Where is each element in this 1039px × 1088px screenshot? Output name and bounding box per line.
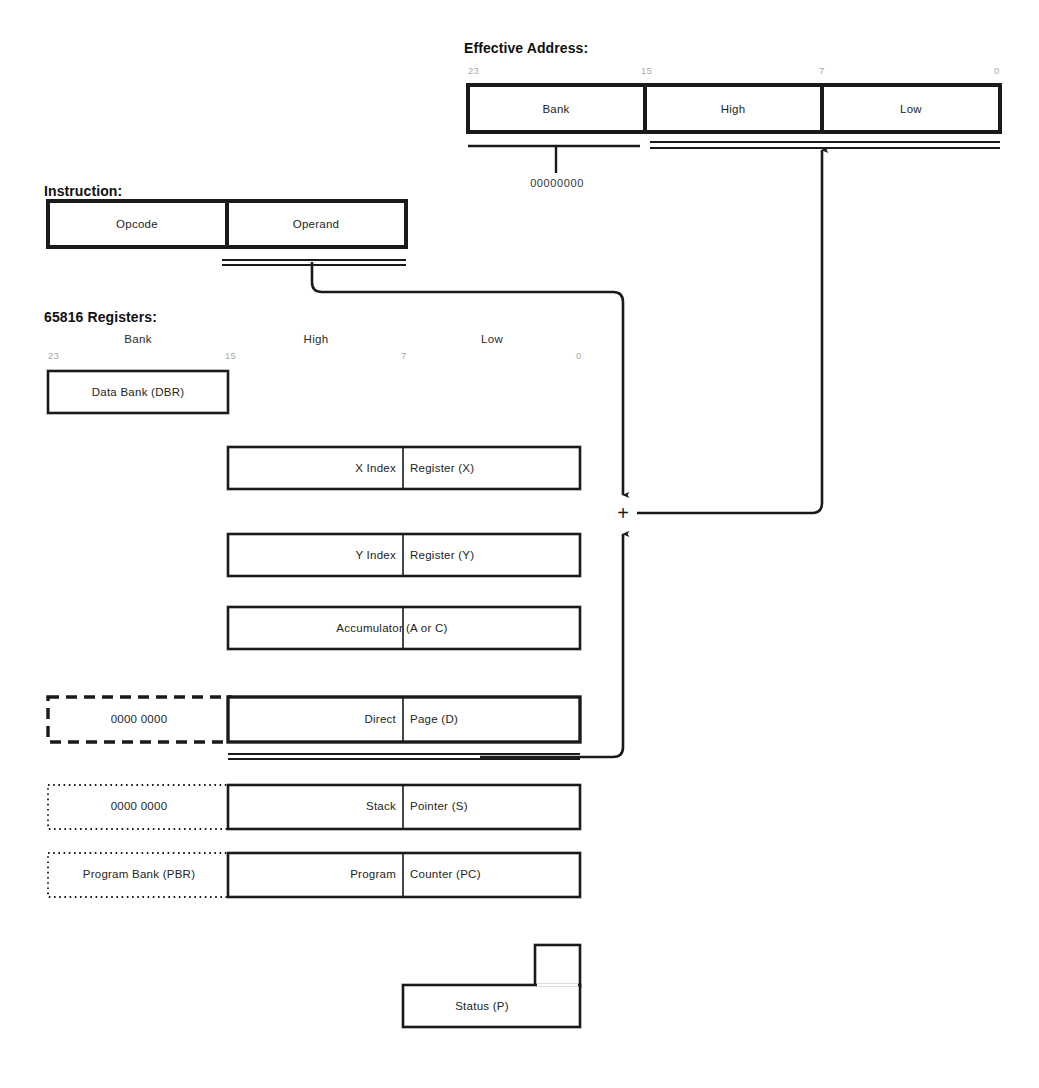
adder-to-effective-address-route xyxy=(637,150,822,513)
reg-bit-label-23: 23 xyxy=(48,351,59,361)
instruction-field-opcode-label: Opcode xyxy=(116,219,158,231)
diagram-vector-layer xyxy=(0,0,1039,1088)
ea-bit-label-23: 23 xyxy=(468,66,479,76)
direct-page-box-group xyxy=(48,697,580,759)
stack-pointer-left-label: Stack xyxy=(366,801,396,813)
ea-field-bank-label: Bank xyxy=(542,104,569,116)
accumulator-right-label: (A or C) xyxy=(406,623,448,635)
y-index-right-label: Register (Y) xyxy=(410,550,474,562)
y-index-left-label: Y Index xyxy=(355,550,396,562)
ea-bit-label-15: 15 xyxy=(641,66,652,76)
instruction-box-group xyxy=(48,201,406,265)
direct-page-right-label: Page (D) xyxy=(410,714,458,726)
direct-page-left-label: Direct xyxy=(364,714,396,726)
adder-plus-symbol: + xyxy=(617,503,629,523)
effective-address-heading: Effective Address: xyxy=(464,41,588,55)
ea-bank-zero-annotation: 00000000 xyxy=(530,178,584,189)
x-index-left-label: X Index xyxy=(355,463,396,475)
ea-field-low-label: Low xyxy=(900,104,922,116)
data-bank-register-label: Data Bank (DBR) xyxy=(92,387,185,399)
program-counter-left-box-value: Program Bank (PBR) xyxy=(83,869,196,881)
direct-page-left-box-value: 0000 0000 xyxy=(111,714,168,726)
reg-bit-label-7: 7 xyxy=(401,351,406,361)
ea-bit-label-7: 7 xyxy=(819,66,824,76)
registers-column-heading-high: High xyxy=(304,334,329,346)
x-index-box-group xyxy=(228,447,580,489)
stack-pointer-right-label: Pointer (S) xyxy=(410,801,468,813)
instruction-field-operand-label: Operand xyxy=(293,219,340,231)
reg-bit-label-15: 15 xyxy=(225,351,236,361)
x-index-right-label: Register (X) xyxy=(410,463,474,475)
accumulator-box-group xyxy=(228,607,580,649)
status-register-label: Status (P) xyxy=(455,1001,509,1013)
ea-field-high-label: High xyxy=(721,104,746,116)
registers-column-heading-low: Low xyxy=(481,334,503,346)
accumulator-left-label: Accumulator xyxy=(336,623,403,635)
registers-heading: 65816 Registers: xyxy=(44,310,157,324)
effective-address-bus-bars xyxy=(468,142,1000,173)
diagram-canvas: Effective Address: 23 15 7 0 Bank High L… xyxy=(0,0,1039,1088)
program-counter-right-label: Counter (PC) xyxy=(410,869,481,881)
status-register-box-group xyxy=(403,945,580,1027)
program-counter-left-label: Program xyxy=(350,869,396,881)
stack-pointer-left-box-value: 0000 0000 xyxy=(111,801,168,813)
instruction-heading: Instruction: xyxy=(44,184,122,198)
y-index-box-group xyxy=(228,534,580,576)
reg-bit-label-0: 0 xyxy=(576,351,581,361)
registers-column-heading-bank: Bank xyxy=(124,334,151,346)
ea-bit-label-0: 0 xyxy=(994,66,999,76)
